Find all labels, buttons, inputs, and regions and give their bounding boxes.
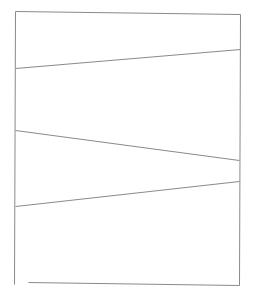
- diagonal-1-line: [16, 50, 241, 69]
- diagonal-2-line: [16, 131, 240, 161]
- diagonal-3-line: [16, 182, 240, 207]
- top-edge-line: [16, 12, 241, 15]
- left-edge-line: [15, 12, 16, 285]
- right-edge-line: [240, 15, 241, 286]
- line-drawing: [0, 0, 253, 297]
- bottom-edge-line: [29, 283, 240, 286]
